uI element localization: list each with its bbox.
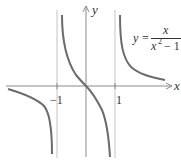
function-eq: = — [142, 32, 149, 44]
tick-label-1: 1 — [116, 94, 122, 106]
function-denominator-base: x — [151, 40, 156, 52]
y-axis-label: y — [92, 3, 98, 16]
function-numerator: x — [163, 24, 168, 36]
function-denominator-rest: − 1 — [161, 40, 180, 52]
function-label: y = x x 2 − 1 — [131, 24, 181, 50]
x-axis-label: x — [174, 79, 180, 92]
function-lhs: y — [133, 32, 138, 44]
tick-label-neg1: −1 — [50, 94, 63, 106]
curve-left-branch — [8, 89, 52, 154]
